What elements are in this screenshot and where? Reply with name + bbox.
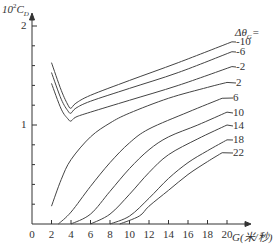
x-tick-label: 6 <box>88 229 94 240</box>
curves <box>52 42 237 224</box>
x-tick-label: 10 <box>124 229 135 240</box>
y-axis-arrow <box>30 13 35 20</box>
curve--10 <box>52 42 232 108</box>
series-label: -2 <box>236 61 245 72</box>
x-axis-label: G(米/秒) <box>232 228 272 244</box>
series-label: 14 <box>233 120 244 131</box>
y-tick-label: 2 <box>21 20 27 31</box>
x-tick-label: 14 <box>163 229 174 240</box>
y-axis-label: 102CD <box>2 2 29 18</box>
curve-6 <box>58 98 222 224</box>
series-label: -6 <box>236 46 245 57</box>
x-tick-label: 16 <box>183 229 194 240</box>
x-tick-label: 18 <box>202 229 213 240</box>
y-tick-label: 1 <box>21 119 27 130</box>
x-tick-label: 12 <box>144 229 155 240</box>
curve--6 <box>52 52 232 114</box>
curve-2 <box>52 82 228 206</box>
x-tick-label: 8 <box>107 229 113 240</box>
x-tick-label: 4 <box>68 229 74 240</box>
series-label: 18 <box>233 134 244 145</box>
curve-18 <box>110 140 227 224</box>
axes <box>30 13 252 227</box>
x-axis-arrow <box>245 222 251 227</box>
x-tick-label: 0 <box>29 229 35 240</box>
series-label: 6 <box>233 92 239 103</box>
leader-line <box>227 82 236 83</box>
x-tick-label: 20 <box>222 229 233 240</box>
series-label: 2 <box>236 77 242 88</box>
series-label: 10 <box>233 107 244 118</box>
series-label: 22 <box>233 147 244 158</box>
curve--2 <box>52 67 232 122</box>
curve-14 <box>91 125 228 224</box>
x-tick-label: 2 <box>49 229 55 240</box>
